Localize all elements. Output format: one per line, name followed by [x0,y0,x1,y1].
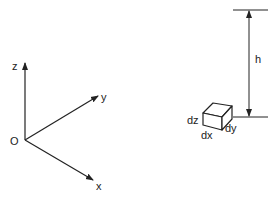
diagram-canvas: O z y x h dz dx dy [0,0,280,200]
height-label: h [255,53,261,65]
x-axis-label: x [96,180,102,192]
dy-label: dy [225,122,237,134]
coordinate-axes: O z y x [10,60,107,192]
dz-label: dz [187,114,199,126]
y-axis [25,96,98,140]
z-axis-label: z [12,60,18,72]
y-axis-label: y [101,91,107,103]
origin-label: O [10,135,19,147]
x-axis [25,140,93,180]
height-dimension: h [233,10,268,117]
dx-label: dx [201,129,213,141]
